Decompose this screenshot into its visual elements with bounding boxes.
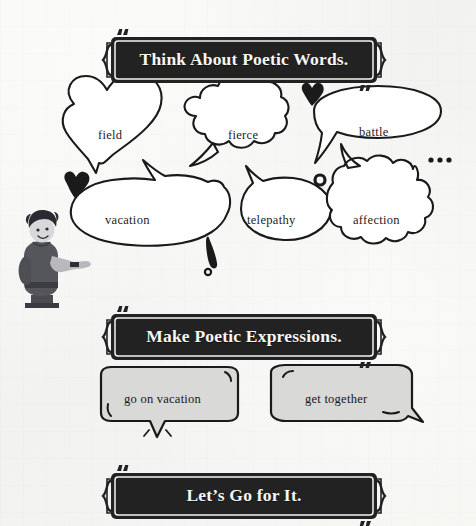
word-bubble-vacation[interactable] <box>71 160 230 246</box>
banner-lets-go-for-it: Let’s Go for It. <box>103 470 385 522</box>
bubble-label-field: field <box>98 128 122 143</box>
chip-label-go-on-vacation: go on vacation <box>124 392 201 407</box>
ring-dot-icon <box>315 175 325 185</box>
ellipsis-dots-icon <box>428 157 451 162</box>
banner-label: Let’s Go for It. <box>103 470 385 522</box>
exclamation-mark-icon <box>205 237 217 276</box>
word-bubble-field[interactable] <box>63 73 162 173</box>
chip-label-get-together: get together <box>305 392 367 407</box>
bubble-label-telepathy: telepathy <box>247 213 296 228</box>
banner-make-poetic-expressions: Make Poetic Expressions. <box>103 311 385 363</box>
word-bubble-fierce[interactable] <box>185 75 289 166</box>
bubble-label-battle: battle <box>359 125 389 140</box>
word-bubble-affection[interactable] <box>327 144 433 244</box>
bubble-label-fierce: fierce <box>228 128 258 143</box>
bubble-label-vacation: vacation <box>105 213 150 228</box>
bubble-label-affection: affection <box>353 213 400 228</box>
banner-label: Make Poetic Expressions. <box>103 311 385 363</box>
banner-think-about-poetic-words: Think About Poetic Words. <box>103 34 385 86</box>
banner-label: Think About Poetic Words. <box>103 34 385 86</box>
